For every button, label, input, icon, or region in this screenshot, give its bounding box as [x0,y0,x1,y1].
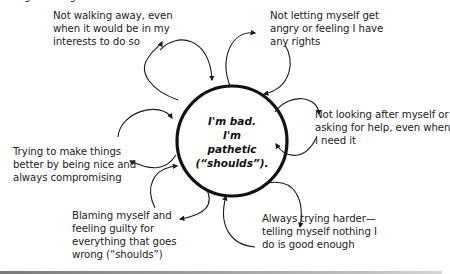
node-line: better by being nice and [13,158,136,171]
node-line: angry or feeling I have [270,22,383,35]
node-not-walking-away: Not walking away, even when it would be … [53,9,173,48]
node-line: asking for help, even when [315,121,450,134]
node-not-letting-myself-angry: Not letting myself get angry or feeling … [270,9,383,48]
node-line: everything that goes [72,235,176,248]
arrow-into-circle-right [276,138,316,155]
node-line: when it would be in my [53,22,173,35]
node-blaming-myself: Blaming myself and feeling guilty for ev… [72,209,176,261]
node-line: interests to do so [53,35,173,48]
center-belief: I'm bad. I'm pathetic (“shoulds”). [182,114,282,170]
node-line: feeling guilty for [72,222,176,235]
center-line: I'm [182,128,282,142]
center-line: (“shoulds”). [182,156,282,170]
arrow-into-circle-lower-left [151,166,177,208]
node-line: Not walking away, even [53,9,173,22]
node-always-trying-harder: Always trying harder— telling myself not… [262,212,377,251]
node-line: Blaming myself and [72,209,176,222]
center-line: pathetic [182,142,282,156]
arrow-to-not-looking-after [275,99,319,114]
node-trying-to-make-things-better: Trying to make things better by being ni… [13,145,136,184]
node-line: Trying to make things [13,145,136,158]
node-not-looking-after-myself: Not looking after myself or asking for h… [315,108,450,147]
arrow-to-blaming-myself [180,188,209,219]
arrow-to-not-walking-away [145,42,178,100]
node-line: telling myself nothing I [262,225,377,238]
node-line: Always trying harder— [262,212,377,225]
node-line: I need it [315,134,450,147]
node-line: Not looking after myself or [315,108,450,121]
node-line: Not letting myself get [270,9,383,22]
arrow-into-circle-upper-right [264,45,290,94]
center-line: I'm bad. [182,114,282,128]
node-line: always compromising [13,171,136,184]
node-line: do is good enough [262,238,377,251]
arrow-to-not-letting-angry [226,33,255,86]
node-line: any rights [270,35,383,48]
node-line: wrong (“shoulds”) [72,248,176,261]
arrow-into-circle-left [118,109,172,137]
arrow-to-trying-to-make-better [130,155,176,168]
arrow-into-circle-bottom [224,196,255,247]
